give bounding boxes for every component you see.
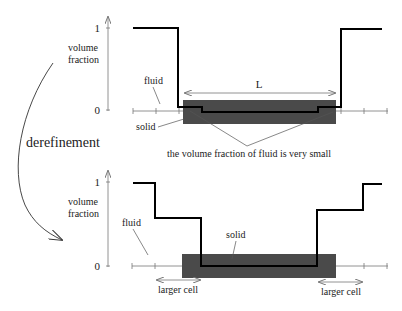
top-tick-1: 1	[95, 22, 101, 34]
bottom-y-label-line2: fraction	[68, 208, 99, 219]
larger-cell-left-label: larger cell	[158, 284, 198, 295]
derefinement-arrow	[18, 63, 62, 240]
top-solid-label: solid	[136, 121, 155, 132]
bottom-volume-fraction-curve	[133, 183, 382, 266]
length-label: L	[256, 78, 263, 90]
bottom-solid-label: solid	[226, 229, 245, 240]
bottom-tick-0: 0	[95, 260, 101, 272]
derefinement-label: derefinement	[26, 135, 100, 150]
top-fluid-label: fluid	[144, 75, 163, 86]
larger-cell-right-label: larger cell	[321, 286, 361, 297]
top-panel: 1 0 volume fraction L fluid solid	[68, 17, 388, 159]
top-y-label-line2: fraction	[68, 54, 99, 65]
top-volume-fraction-curve	[133, 28, 382, 112]
top-fluid-leader	[153, 87, 160, 104]
derefinement-diagram: 1 0 volume fraction L fluid solid	[0, 0, 402, 311]
note-text: the volume fraction of fluid is very sma…	[167, 148, 331, 159]
bottom-panel: 1 0 volume fraction fluid solid larger c…	[68, 171, 388, 297]
bottom-y-label-line1: volume	[68, 196, 99, 207]
bottom-fluid-leader	[133, 229, 148, 255]
bottom-fluid-label: fluid	[122, 217, 141, 228]
bottom-tick-1: 1	[95, 176, 101, 188]
top-tick-0: 0	[95, 104, 101, 116]
top-solid-leader	[158, 119, 184, 127]
top-y-label-line1: volume	[68, 42, 99, 53]
